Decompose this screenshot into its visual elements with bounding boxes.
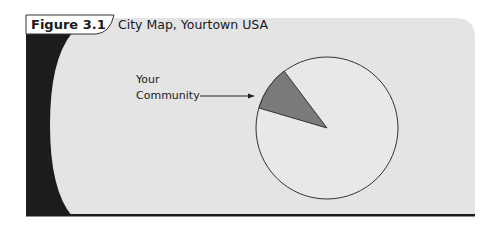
- figure-title: City Map, Yourtown USA: [118, 17, 268, 32]
- annotation-line-1: Your: [136, 72, 200, 88]
- annotation-line-2: Community: [136, 88, 200, 104]
- bottom-rule: [26, 214, 475, 217]
- figure-graphic: [0, 0, 498, 231]
- figure-number: Figure 3.1: [31, 17, 106, 32]
- figure-container: Figure 3.1 City Map, Yourtown USA Your C…: [0, 0, 498, 231]
- annotation-label: Your Community: [136, 72, 200, 104]
